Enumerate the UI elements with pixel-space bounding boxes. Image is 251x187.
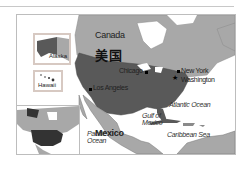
top-divider xyxy=(0,6,234,7)
pacific-line1: Pacific xyxy=(87,130,106,137)
pacific-line2: Ocean xyxy=(87,137,106,144)
washington-star-icon: ★ xyxy=(172,74,178,81)
alaska-label: Alaska xyxy=(49,53,67,59)
chicago-marker xyxy=(145,71,148,74)
gulf-line1: Gulf of xyxy=(142,112,161,119)
locator-map xyxy=(17,106,79,154)
alaska-inset: Alaska xyxy=(33,33,71,65)
canada-label: Canada xyxy=(95,30,125,40)
usa-label: 美国 xyxy=(95,45,123,64)
map-frame: Alaska Hawaii Canada 美国 Mexico Chicago L… xyxy=(16,14,236,155)
locator-inset xyxy=(17,105,80,154)
los-angeles-marker xyxy=(89,88,92,91)
atlantic-ocean-label: Atlantic Ocean xyxy=(169,101,210,108)
hawaii-label: Hawaii xyxy=(38,82,56,88)
gulf-line2: Mexico xyxy=(142,119,162,126)
washington-label: Washington xyxy=(181,76,215,83)
new-york-label: New York xyxy=(181,67,208,74)
new-york-marker xyxy=(177,70,180,73)
hawaii-inset: Hawaii xyxy=(33,70,63,92)
caribbean-sea-label: Caribbean Sea xyxy=(167,131,210,138)
los-angeles-label: Los Angeles xyxy=(93,84,128,91)
chicago-label: Chicago xyxy=(119,67,143,74)
